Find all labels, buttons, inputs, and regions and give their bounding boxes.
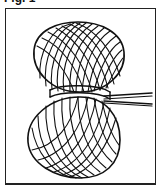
- yarn-hank-icon: [0, 0, 161, 188]
